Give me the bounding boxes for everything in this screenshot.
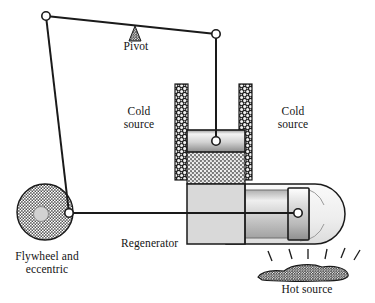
flame-line [268,251,272,261]
connecting-rod [46,16,69,213]
figure-canvas: Pivot Cold source Cold source Regenerato… [0,0,375,303]
displacer-pin [294,209,302,217]
cold-source-bar-left [175,84,188,180]
flame-line [325,249,327,259]
flame-line [341,248,345,258]
crank-pin [65,209,73,217]
hot-source-mound [258,265,348,282]
cold-source-right-label: Cold source [262,105,324,131]
beam-right-joint [212,30,220,38]
flame-line [354,250,360,260]
cold-gas-space [187,151,245,184]
power-piston-pin [212,137,220,145]
flywheel-hub [34,207,49,222]
walking-beam [46,16,216,34]
cold-source-left-label: Cold source [108,105,170,131]
pivot-label: Pivot [108,40,164,53]
regenerator-label: Regenerator [121,237,178,250]
beam-left-joint [42,12,50,20]
flame-line [289,249,292,259]
pivot-triangle [129,26,141,41]
hot-source-label: Hot source [265,283,349,296]
hot-source-group [258,248,360,281]
heat-flames [268,248,360,261]
flywheel-label: Flywheel and eccentric [4,250,90,276]
